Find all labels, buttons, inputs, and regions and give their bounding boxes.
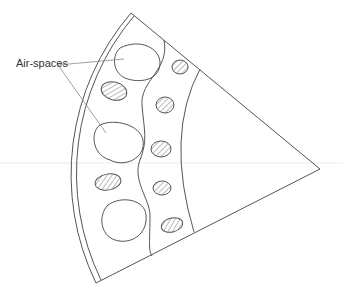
hatched-cell [94, 172, 122, 192]
outer-arc [71, 13, 131, 283]
hatched-cell [156, 97, 174, 113]
hatched-cell [153, 181, 171, 195]
inner-arc [181, 69, 200, 232]
hatched-cell [160, 215, 185, 234]
hatched-cell [99, 79, 129, 103]
hatched-cell [172, 60, 188, 74]
wedge-bottom-edge [96, 169, 320, 283]
hatched-cell [151, 141, 171, 157]
inner-outer-arc [76, 16, 134, 280]
sector-diagram [0, 0, 343, 292]
air-spaces-label: Air-spaces [16, 57, 68, 69]
air-space-1 [115, 44, 160, 81]
air-space-2 [94, 122, 143, 163]
air-space-3 [102, 200, 146, 241]
